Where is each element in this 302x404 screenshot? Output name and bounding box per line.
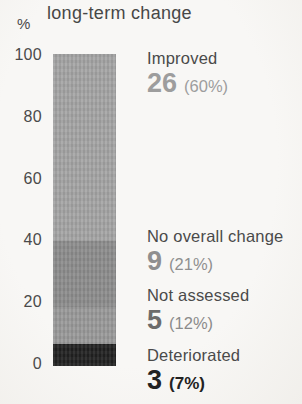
annotation-count: 26 — [147, 70, 177, 96]
y-axis: 100 80 60 40 20 0 — [0, 55, 42, 364]
annotation-label: No overall change — [147, 226, 283, 246]
annotation-percent: (60%) — [184, 77, 228, 96]
annotation-not-assessed: Not assessed 5 (12%) — [147, 285, 249, 333]
y-tick-60: 60 — [24, 170, 42, 188]
y-axis-unit-label: % — [17, 15, 30, 32]
annotation-label: Not assessed — [147, 285, 249, 305]
chart-title: long-term change — [47, 3, 192, 24]
annotation-no-overall-change: No overall change 9 (21%) — [147, 226, 283, 274]
annotation-percent: (7%) — [169, 374, 205, 394]
y-tick-80: 80 — [24, 108, 42, 126]
annotation-improved: Improved 26 (60%) — [147, 48, 228, 96]
bar-segment-not-assessed — [53, 307, 116, 344]
annotation-count: 5 — [147, 307, 162, 333]
y-tick-100: 100 — [14, 46, 42, 64]
bar-segment-deteriorated — [53, 344, 116, 366]
y-tick-0: 0 — [33, 355, 42, 373]
annotation-count: 9 — [147, 248, 162, 274]
bar-segment-no-overall-change — [53, 241, 116, 307]
annotation-count: 3 — [147, 367, 162, 393]
annotation-label: Deteriorated — [147, 345, 240, 365]
y-tick-20: 20 — [24, 293, 42, 311]
annotation-percent: (21%) — [169, 255, 213, 274]
annotation-percent: (12%) — [169, 314, 213, 333]
chart-panel: long-term change % 100 80 60 40 20 0 Imp… — [0, 0, 302, 404]
annotation-deteriorated: Deteriorated 3 (7%) — [147, 345, 240, 394]
y-tick-40: 40 — [24, 231, 42, 249]
stacked-bar — [53, 54, 116, 366]
annotation-label: Improved — [147, 48, 228, 68]
bar-segment-improved — [53, 54, 116, 241]
